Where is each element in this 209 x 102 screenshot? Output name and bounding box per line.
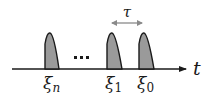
axis-label: t bbox=[193, 57, 201, 79]
pulse-xi-n bbox=[45, 33, 59, 69]
interval-label: τ bbox=[123, 3, 132, 21]
pulse-diagram: τ t ξn ξ1 ξ0 bbox=[0, 0, 209, 102]
label-xi-1: ξ1 bbox=[105, 73, 122, 95]
ellipsis-dots bbox=[74, 56, 89, 59]
label-xi-0: ξ0 bbox=[137, 73, 154, 95]
label-xi-n: ξn bbox=[43, 73, 60, 95]
pulse-xi-1 bbox=[107, 33, 122, 69]
pulse-xi-0 bbox=[139, 33, 154, 69]
